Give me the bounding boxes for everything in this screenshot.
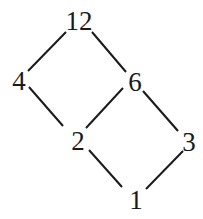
hasse-diagram: 1246231 — [0, 0, 203, 219]
diagram-edges — [0, 0, 203, 219]
node-2: 2 — [71, 128, 85, 155]
node-4: 4 — [12, 68, 26, 95]
edge-3-1 — [146, 151, 183, 189]
node-1: 1 — [129, 187, 143, 214]
node-6: 6 — [128, 69, 142, 96]
edge-2-1 — [89, 150, 122, 187]
edge-12-4 — [28, 32, 66, 71]
edge-6-2 — [86, 88, 123, 128]
edge-4-2 — [29, 87, 63, 126]
edge-6-3 — [143, 91, 178, 131]
node-12: 12 — [66, 8, 93, 35]
edge-12-6 — [92, 32, 126, 72]
node-3: 3 — [182, 129, 196, 156]
